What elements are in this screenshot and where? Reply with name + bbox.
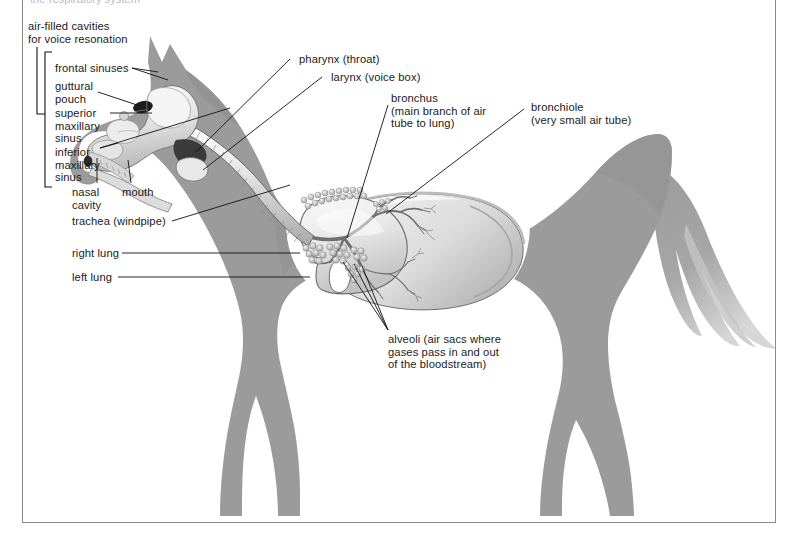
bracket-inner-sinuses (45, 52, 52, 187)
label-mouth: mouth (122, 186, 154, 199)
label-inferior-maxillary-sinus: inferior maxillary sinus (55, 146, 100, 184)
label-trachea: trachea (windpipe) (72, 215, 166, 228)
label-frontal-sinuses: frontal sinuses (55, 62, 129, 75)
bracket-outer-air-filled (37, 47, 45, 114)
label-pharynx: pharynx (throat) (299, 53, 380, 66)
label-right-lung: right lung (72, 247, 119, 260)
label-left-lung: left lung (72, 271, 112, 284)
label-air-filled-cavities: air-filled cavities for voice resonation (28, 20, 128, 45)
leader-guttural-pouch (98, 92, 140, 106)
label-bronchus: bronchus (main branch of air tube to lun… (391, 92, 486, 130)
diagram-canvas: the respiratory system (0, 0, 794, 544)
label-guttural-pouch: guttural pouch (55, 80, 93, 105)
label-bronchiole: bronchiole (very small air tube) (531, 101, 631, 126)
label-nasal-cavity: nasal cavity (72, 186, 101, 211)
label-alveoli: alveoli (air sacs where gases pass in an… (388, 333, 501, 371)
left-lung-notch (329, 259, 351, 292)
bracket-group (37, 47, 52, 187)
label-superior-maxillary-sinus: superior maxillary sinus (55, 107, 100, 145)
horse-tail (652, 168, 776, 348)
label-larynx: larynx (voice box) (331, 71, 420, 84)
superior-maxillary-sinus (107, 120, 140, 144)
